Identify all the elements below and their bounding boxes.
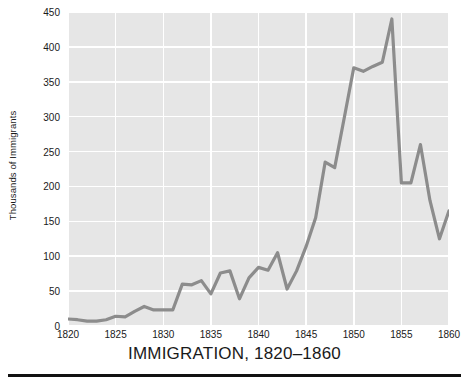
y-axis-tick-label: 250 bbox=[43, 146, 60, 157]
x-axis-tick-labels: 182018251830183518401845185018551860 bbox=[0, 329, 469, 345]
x-axis-tick-label: 1855 bbox=[390, 329, 412, 340]
y-axis-tick-label: 400 bbox=[43, 41, 60, 52]
data-line-svg bbox=[68, 12, 449, 326]
x-axis-tick-label: 1860 bbox=[438, 329, 460, 340]
y-axis-tick-label: 450 bbox=[43, 7, 60, 18]
y-axis-tick-label: 300 bbox=[43, 111, 60, 122]
x-axis-tick-label: 1825 bbox=[105, 329, 127, 340]
y-axis-tick-label: 100 bbox=[43, 251, 60, 262]
bottom-divider-rule bbox=[8, 374, 461, 377]
y-axis-tick-label: 50 bbox=[49, 286, 60, 297]
chart-title: IMMIGRATION, 1820–1860 bbox=[0, 344, 469, 364]
x-axis-tick-label: 1850 bbox=[343, 329, 365, 340]
y-axis-tick-label: 350 bbox=[43, 76, 60, 87]
y-axis-tick-label: 150 bbox=[43, 216, 60, 227]
x-axis-tick-label: 1830 bbox=[152, 329, 174, 340]
y-axis-label-text: Thousands of Immigrants bbox=[8, 110, 19, 220]
x-axis-tick-label: 1845 bbox=[295, 329, 317, 340]
x-axis-tick-label: 1840 bbox=[247, 329, 269, 340]
y-axis-tick-labels: 050100150200250300350400450 bbox=[26, 0, 64, 340]
y-axis-tick-label: 200 bbox=[43, 181, 60, 192]
y-axis-label: Thousands of Immigrants bbox=[0, 0, 26, 330]
immigrants-line-series bbox=[68, 19, 449, 321]
plot-area bbox=[68, 12, 449, 326]
immigration-line-chart-figure: Thousands of Immigrants 0501001502002503… bbox=[0, 0, 469, 383]
x-axis-tick-label: 1820 bbox=[57, 329, 79, 340]
x-axis-tick-label: 1835 bbox=[200, 329, 222, 340]
